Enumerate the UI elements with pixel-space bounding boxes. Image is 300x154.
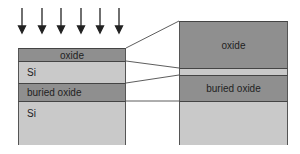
- layer-label: Si: [27, 108, 36, 119]
- left-buried-oxide-layer: buried oxide: [18, 83, 126, 101]
- layer-label: buried oxide: [27, 87, 81, 98]
- incident-arrows: [19, 8, 123, 33]
- down-arrow-icon: [58, 8, 65, 33]
- right-si-layer: [179, 68, 288, 75]
- right-buried-oxide-layer: buried oxide: [179, 75, 288, 101]
- right-si-substrate-layer: [179, 101, 288, 145]
- down-arrow-icon: [19, 8, 26, 33]
- down-arrow-icon: [39, 8, 46, 33]
- left-si-substrate-layer: Si: [18, 101, 126, 145]
- layer-label: Si: [27, 67, 36, 78]
- down-arrow-icon: [97, 8, 104, 33]
- layer-label: oxide: [222, 40, 246, 51]
- down-arrow-icon: [78, 8, 85, 33]
- right-oxide-layer: oxide: [179, 21, 288, 68]
- layer-label: oxide: [60, 50, 84, 61]
- zoom-connector-lines: [126, 21, 179, 101]
- left-si-layer: Si: [18, 61, 126, 83]
- left-oxide-layer: oxide: [18, 48, 126, 61]
- layer-label: buried oxide: [206, 83, 260, 94]
- down-arrow-icon: [116, 8, 123, 33]
